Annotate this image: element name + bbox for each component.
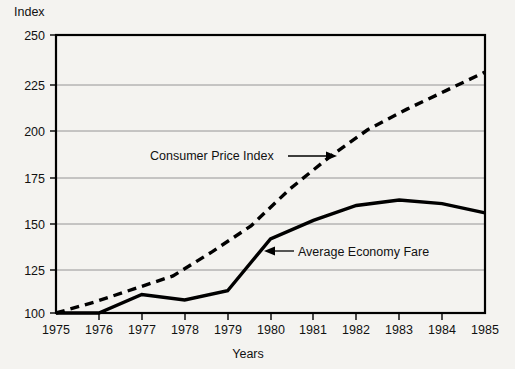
x-tick-label-1976: 1976	[85, 323, 113, 337]
y-tick-label-250: 250	[24, 29, 45, 43]
x-tick-label-1975: 1975	[42, 323, 70, 337]
plot-border	[56, 35, 485, 313]
line-chart-figure: Index 250 225 200 175 150 125 100 1975 1…	[0, 0, 515, 369]
y-tick-label-225: 225	[24, 79, 45, 93]
annotation-label-fare: Average Economy Fare	[298, 245, 429, 259]
y-axis-title: Index	[14, 5, 45, 19]
x-tick-label-1980: 1980	[257, 323, 285, 337]
x-tick-label-1985: 1985	[471, 323, 499, 337]
x-axis-title: Years	[232, 347, 264, 361]
annotation-arrowhead-fare	[264, 247, 275, 256]
x-tick-label-1984: 1984	[428, 323, 456, 337]
chart-container: Index 250 225 200 175 150 125 100 1975 1…	[0, 0, 515, 369]
annotation-label-cpi: Consumer Price Index	[150, 149, 274, 163]
x-tick-label-1979: 1979	[214, 323, 242, 337]
x-tick-label-1983: 1983	[385, 323, 413, 337]
y-tick-label-100: 100	[24, 307, 45, 321]
x-tick-label-1981: 1981	[299, 323, 327, 337]
y-tick-label-200: 200	[24, 125, 45, 139]
y-tick-label-175: 175	[24, 172, 45, 186]
y-tick-label-150: 150	[24, 218, 45, 232]
x-tick-label-1982: 1982	[342, 323, 370, 337]
series-consumer-price-index	[56, 72, 485, 313]
annotation-arrowhead-cpi	[326, 152, 337, 161]
y-tick-label-125: 125	[24, 264, 45, 278]
gridlines	[56, 85, 485, 270]
x-tick-label-1977: 1977	[128, 323, 156, 337]
x-tick-label-1978: 1978	[171, 323, 199, 337]
annotation-average-economy-fare: Average Economy Fare	[264, 245, 429, 259]
annotation-consumer-price-index: Consumer Price Index	[150, 149, 337, 163]
